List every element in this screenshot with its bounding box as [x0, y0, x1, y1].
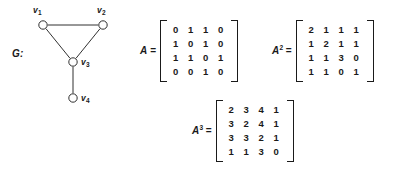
matrix-exponent: 3: [200, 124, 204, 131]
matrix-cell: 4: [255, 117, 268, 131]
matrix-cell: 3: [240, 131, 253, 145]
vertex-label-index: 1: [38, 9, 42, 16]
matrix-cell: 1: [335, 37, 348, 51]
matrix-grid-A: 0110101011010010: [169, 23, 229, 79]
matrix-cell: 0: [214, 65, 227, 79]
equals-sign: =: [286, 46, 292, 56]
vertex-label-v1: v1: [33, 6, 41, 15]
matrix-cell: 1: [350, 65, 363, 79]
matrix-cell: 2: [305, 23, 318, 37]
matrix-cell: 3: [225, 117, 238, 131]
matrix-cell: 1: [320, 51, 333, 65]
matrix-cell: 0: [169, 23, 182, 37]
matrix-cell: 1: [320, 65, 333, 79]
matrix-cell: 1: [320, 23, 333, 37]
matrix-cell: 3: [255, 145, 268, 159]
matrix-brackets-A2: 2111121111301101: [296, 20, 374, 82]
matrix-exponent: 2: [280, 44, 284, 51]
matrix-cell: 1: [270, 117, 283, 131]
vertex-label-index: 3: [86, 61, 90, 68]
matrix-cell: 1: [335, 23, 348, 37]
graph-edge-v2-v3: [76, 29, 100, 59]
graph-vertex-v3: [69, 58, 77, 66]
equals-sign: =: [206, 126, 212, 136]
matrix-cell: 1: [184, 23, 197, 37]
matrix-cell: 1: [350, 37, 363, 51]
matrix-cell: 1: [350, 23, 363, 37]
matrix-cell: 4: [255, 103, 268, 117]
matrix-cell: 3: [335, 51, 348, 65]
matrix-cell: 1: [169, 51, 182, 65]
matrix-name-letter: A: [272, 45, 279, 56]
graph-drawing: [0, 0, 150, 120]
matrix-cell: 1: [214, 51, 227, 65]
matrix-cell: 1: [199, 65, 212, 79]
matrix-cell: 0: [350, 51, 363, 65]
matrix-cell: 1: [305, 65, 318, 79]
matrix-cell: 1: [270, 131, 283, 145]
matrix-cell: 2: [240, 117, 253, 131]
matrix-cell: 2: [225, 103, 238, 117]
vertex-label-v2: v2: [97, 6, 105, 15]
vertex-label-index: 4: [86, 97, 90, 104]
matrix-name-letter: A: [192, 125, 199, 136]
graph-vertex-v2: [99, 21, 107, 29]
matrix-cell: 1: [184, 51, 197, 65]
matrix-cell: 1: [199, 37, 212, 51]
matrix-cell: 1: [240, 145, 253, 159]
matrix-cell: 3: [240, 103, 253, 117]
matrix-brackets-A3: 2341324133211130: [216, 100, 294, 162]
matrix-cell: 0: [199, 51, 212, 65]
matrix-cell: 0: [335, 65, 348, 79]
matrix-cell: 1: [305, 51, 318, 65]
matrix-cell: 1: [305, 37, 318, 51]
matrix-brackets-A: 0110101011010010: [160, 20, 238, 82]
matrix-cell: 2: [255, 131, 268, 145]
matrix-name-A2: A2: [272, 46, 283, 56]
matrix-cell: 3: [225, 131, 238, 145]
matrix-cell: 1: [270, 103, 283, 117]
vertex-label-index: 2: [102, 9, 106, 16]
matrix-A2: A2=2111121111301101: [272, 20, 374, 82]
matrix-grid-A2: 2111121111301101: [305, 23, 365, 79]
matrix-cell: 1: [225, 145, 238, 159]
matrix-cell: 1: [199, 23, 212, 37]
equals-sign: =: [150, 46, 156, 56]
graph-vertex-v1: [39, 21, 47, 29]
matrix-A: A=0110101011010010: [140, 20, 238, 82]
matrix-cell: 1: [169, 37, 182, 51]
matrix-cell: 0: [270, 145, 283, 159]
matrix-cell: 0: [169, 65, 182, 79]
matrix-A3: A3=2341324133211130: [192, 100, 294, 162]
matrix-cell: 2: [320, 37, 333, 51]
matrix-cell: 0: [214, 23, 227, 37]
vertex-label-v3: v3: [81, 58, 89, 67]
matrix-name-A3: A3: [192, 126, 203, 136]
graph-vertex-v4: [69, 94, 77, 102]
matrix-grid-A3: 2341324133211130: [225, 103, 285, 159]
matrix-cell: 0: [184, 65, 197, 79]
matrix-name-A: A: [140, 46, 147, 56]
matrix-cell: 0: [184, 37, 197, 51]
adjacency-matrix-figure: G: v1v2v3v4 A=0110101011010010A2=2111121…: [0, 0, 395, 178]
graph-panel: G: v1v2v3v4: [0, 0, 150, 120]
matrix-name-letter: A: [140, 45, 147, 56]
matrix-cell: 0: [214, 37, 227, 51]
graph-edge-v1-v3: [46, 29, 70, 59]
vertex-label-v4: v4: [81, 94, 89, 103]
